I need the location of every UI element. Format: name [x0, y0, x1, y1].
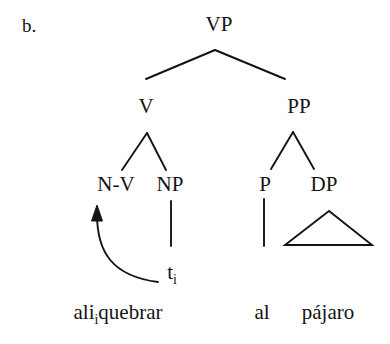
branch-pp-to-dp [293, 132, 314, 169]
movement-arrowhead-icon [92, 205, 103, 221]
terminal-stem-ali: ali [74, 300, 95, 324]
node-np: NP [157, 174, 184, 195]
terminal-al: al [254, 302, 269, 323]
node-v: V [138, 96, 153, 117]
branch-pp-to-p [271, 132, 293, 169]
branch-v-to-np [147, 133, 166, 170]
branch-vp-to-pp [215, 50, 285, 79]
node-vp: VP [206, 14, 233, 35]
movement-arrow-curve [97, 214, 158, 282]
terminal-verb-quebrar: quebrar [98, 300, 162, 324]
figure-canvas: b. VP V PP N-V NP P DP ti aliiquebrar al… [0, 0, 390, 344]
figure-item-label: b. [22, 16, 36, 35]
node-p: P [259, 174, 271, 195]
node-pp: PP [287, 96, 310, 117]
terminal-ali-quebrar: aliiquebrar [74, 302, 163, 323]
branch-v-to-nv [122, 133, 147, 170]
dp-triangle [285, 211, 372, 245]
node-n-v: N-V [97, 174, 134, 195]
trace-index: i [173, 272, 177, 287]
trace-t-i: ti [167, 262, 177, 283]
terminal-pajaro: pájaro [302, 302, 354, 323]
node-dp: DP [311, 174, 338, 195]
branch-vp-to-v [146, 50, 215, 79]
